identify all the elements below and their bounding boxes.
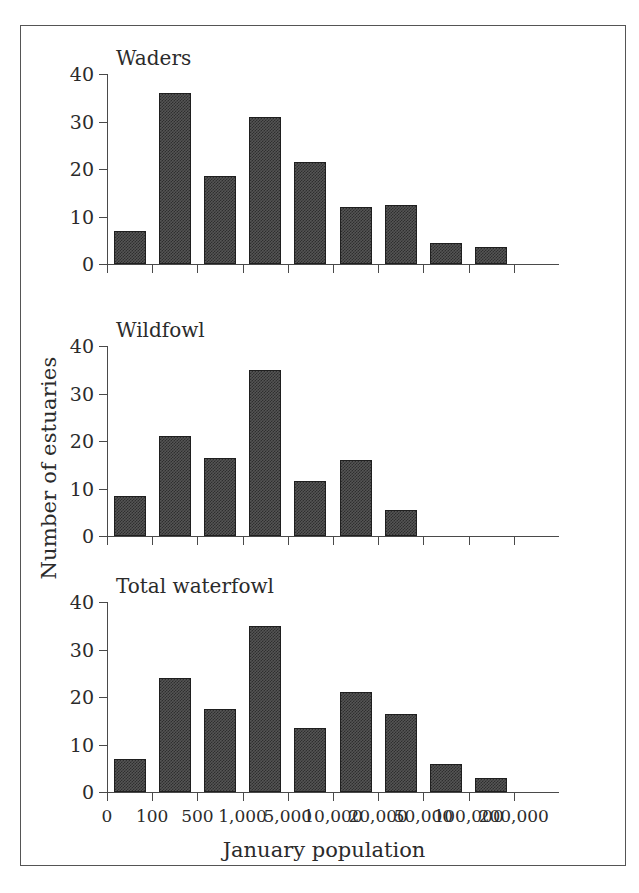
y-tick: 30 — [99, 650, 107, 651]
panel-title-wildfowl: Wildfowl — [116, 318, 205, 342]
y-tick: 30 — [99, 394, 107, 395]
x-tick-label: 100 — [136, 806, 168, 826]
y-tick: 20 — [99, 441, 107, 442]
x-tick-label: 500 — [181, 806, 213, 826]
x-tick — [197, 536, 198, 545]
bar — [430, 764, 462, 793]
y-tick-label: 20 — [70, 686, 94, 708]
y-tick: 40 — [99, 346, 107, 347]
bar — [475, 247, 507, 264]
y-axis-title: Number of estuaries — [37, 288, 61, 648]
x-tick — [288, 792, 289, 801]
x-tick — [423, 536, 424, 545]
x-tick — [152, 264, 153, 273]
plot-area-waders — [107, 74, 559, 264]
bar — [159, 436, 191, 536]
x-tick — [107, 264, 108, 273]
bar — [340, 692, 372, 792]
bar — [385, 714, 417, 792]
x-tick — [514, 536, 515, 545]
bar — [159, 678, 191, 792]
bar — [159, 93, 191, 264]
bar — [294, 728, 326, 792]
y-tick: 20 — [99, 169, 107, 170]
y-tick: 0 — [99, 536, 107, 537]
bar — [294, 481, 326, 536]
x-tick — [333, 536, 334, 545]
x-tick — [333, 792, 334, 801]
y-tick-label: 10 — [70, 478, 94, 500]
y-tick-label: 40 — [70, 591, 94, 613]
x-tick-label: 1,000 — [218, 806, 267, 826]
y-tick-label: 30 — [70, 639, 94, 661]
x-tick — [243, 792, 244, 801]
x-tick-label: 0 — [102, 806, 113, 826]
panel-title-total-waterfowl: Total waterfowl — [116, 574, 274, 598]
x-tick — [288, 264, 289, 273]
y-tick: 40 — [99, 602, 107, 603]
y-tick: 10 — [99, 489, 107, 490]
x-tick — [469, 264, 470, 273]
bar — [340, 460, 372, 536]
panel-title-waders: Waders — [116, 46, 191, 70]
x-tick — [378, 264, 379, 273]
panel-wildfowl: Wildfowl 010203040 — [87, 318, 587, 553]
y-tick: 10 — [99, 745, 107, 746]
y-tick: 20 — [99, 697, 107, 698]
x-tick — [469, 536, 470, 545]
bar — [204, 176, 236, 264]
y-tick-label: 0 — [82, 781, 94, 803]
bar — [204, 458, 236, 536]
y-tick-label: 0 — [82, 253, 94, 275]
x-tick — [107, 536, 108, 545]
bar — [430, 243, 462, 264]
bar — [385, 205, 417, 264]
x-tick — [152, 536, 153, 545]
y-tick-label: 10 — [70, 206, 94, 228]
bar — [249, 370, 281, 536]
x-tick — [243, 536, 244, 545]
bar — [294, 162, 326, 264]
panel-total-waterfowl: Total waterfowl 01020304001005001,0005,0… — [87, 574, 587, 809]
x-tick — [243, 264, 244, 273]
bar — [475, 778, 507, 792]
y-tick-label: 40 — [70, 335, 94, 357]
bar — [114, 759, 146, 792]
panel-waders: Waders 010203040 — [87, 46, 587, 281]
bar — [114, 496, 146, 536]
x-tick — [423, 792, 424, 801]
y-tick-label: 10 — [70, 734, 94, 756]
y-tick: 30 — [99, 122, 107, 123]
x-tick — [469, 792, 470, 801]
x-tick — [333, 264, 334, 273]
bar — [249, 117, 281, 264]
bar — [204, 709, 236, 792]
x-tick — [197, 792, 198, 801]
bar — [114, 231, 146, 264]
x-tick — [378, 536, 379, 545]
x-tick — [197, 264, 198, 273]
bar — [340, 207, 372, 264]
x-axis-title: January population — [21, 838, 627, 862]
y-tick-label: 20 — [70, 430, 94, 452]
y-tick: 10 — [99, 217, 107, 218]
y-tick-label: 0 — [82, 525, 94, 547]
y-tick-label: 30 — [70, 383, 94, 405]
plot-area-total — [107, 602, 559, 792]
y-tick-label: 30 — [70, 111, 94, 133]
y-tick-label: 20 — [70, 158, 94, 180]
x-tick — [378, 792, 379, 801]
x-tick — [514, 264, 515, 273]
y-tick: 0 — [99, 792, 107, 793]
x-tick — [423, 264, 424, 273]
figure-frame: Number of estuaries Waders 010203040 Wil… — [20, 25, 626, 866]
x-tick — [288, 536, 289, 545]
bar — [249, 626, 281, 792]
y-tick-label: 40 — [70, 63, 94, 85]
x-tick-label: 200,000 — [479, 806, 549, 826]
y-tick: 40 — [99, 74, 107, 75]
x-tick — [152, 792, 153, 801]
plot-area-wildfowl — [107, 346, 559, 536]
bar — [385, 510, 417, 536]
x-tick — [514, 792, 515, 801]
